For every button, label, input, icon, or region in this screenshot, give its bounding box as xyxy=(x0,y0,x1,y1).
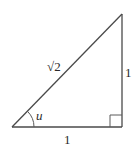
horizontal-leg-label: 1 xyxy=(64,132,71,147)
right-triangle-diagram: √2 1 1 u xyxy=(0,0,138,152)
angle-arc xyxy=(28,111,34,127)
hypotenuse-label: √2 xyxy=(47,59,61,74)
angle-label: u xyxy=(36,108,43,123)
vertical-leg-label: 1 xyxy=(125,65,132,80)
right-angle-marker xyxy=(110,115,122,127)
hypotenuse xyxy=(12,14,122,127)
